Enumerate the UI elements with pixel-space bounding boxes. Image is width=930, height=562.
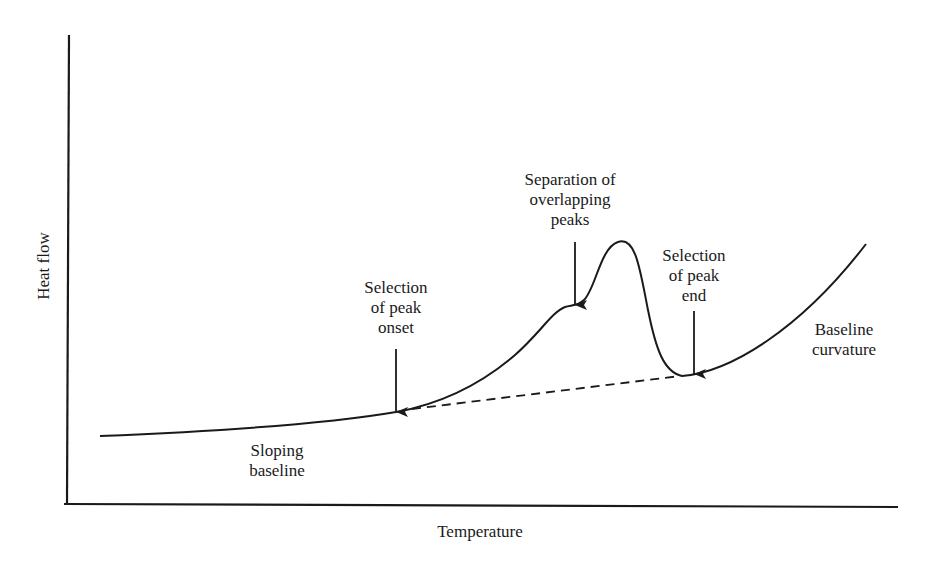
x-axis-label: Temperature <box>0 522 930 542</box>
peak-onset-label: Selection of peak onset <box>346 278 446 338</box>
y-axis <box>67 35 69 504</box>
baseline-curvature-label: Baseline curvature <box>789 320 899 360</box>
y-axis-label: Heat flow <box>34 232 54 300</box>
diagram-canvas <box>0 0 930 562</box>
heat-flow-curve <box>100 241 866 436</box>
overlapping-peaks-label: Separation of overlapping peaks <box>505 170 635 230</box>
peak-end-label: Selection of peak end <box>644 246 744 306</box>
x-axis <box>64 504 898 507</box>
dsc-diagram: Heat flow Temperature Selection of peak … <box>0 0 930 562</box>
interpolated-baseline <box>412 376 680 409</box>
sloping-baseline-label: Sloping baseline <box>227 441 327 481</box>
